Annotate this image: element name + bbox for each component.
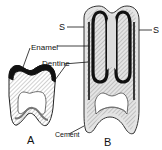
- label-dentine: Dentine: [42, 59, 70, 68]
- label-tooth-a: A: [27, 134, 35, 146]
- tooth-b: [84, 6, 139, 134]
- leader-enamel-a: [22, 48, 30, 70]
- tooth-diagram: S S Enamel Dentine Cement A B: [0, 0, 162, 150]
- label-enamel: Enamel: [31, 43, 58, 52]
- label-tooth-b: B: [104, 136, 111, 148]
- tooth-a: [9, 65, 55, 126]
- label-cement: Cement: [55, 131, 80, 138]
- label-s-right: S: [153, 25, 159, 35]
- tooth-b-inner-cement: [107, 15, 116, 70]
- label-s-left: S: [59, 22, 65, 32]
